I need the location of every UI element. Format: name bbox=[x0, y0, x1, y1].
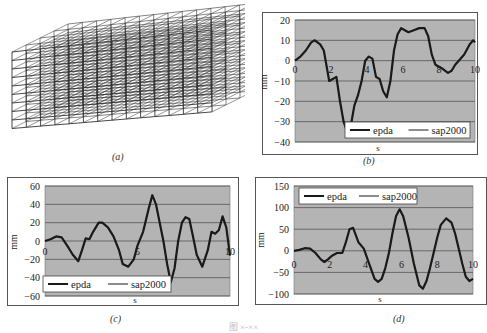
y-tick-label: 10 bbox=[280, 35, 290, 46]
y-tick-label: −40 bbox=[24, 272, 40, 283]
y-axis-label: mm bbox=[255, 232, 266, 248]
legend-label: epda bbox=[71, 279, 91, 290]
x-tick-label: 10 bbox=[470, 64, 480, 75]
y-tick-label: −100 bbox=[268, 289, 289, 300]
panel-c: 6040200−20−40−600510epdasap2000mms (c) bbox=[0, 170, 245, 333]
x-tick-label: 2 bbox=[329, 64, 334, 75]
y-tick-label: −20 bbox=[274, 96, 290, 107]
x-axis-label: s bbox=[376, 143, 380, 153]
wireframe-building-model bbox=[0, 0, 245, 160]
y-tick-label: 0 bbox=[35, 236, 40, 247]
y-tick-label: −30 bbox=[274, 116, 290, 127]
x-tick-label: 0 bbox=[293, 64, 298, 75]
y-tick-label: 60 bbox=[30, 181, 40, 192]
panel-a: (a) bbox=[0, 0, 245, 170]
legend-label: sap2000 bbox=[432, 125, 467, 136]
y-axis-label: mm bbox=[8, 234, 19, 250]
y-tick-label: −40 bbox=[274, 137, 290, 148]
legend-label: epda bbox=[327, 191, 347, 202]
chart-b: 20100−10−20−30−400246810epdasap2000mms bbox=[245, 0, 487, 170]
y-tick-label: 20 bbox=[280, 15, 290, 26]
x-tick-label: 0 bbox=[43, 246, 48, 257]
y-tick-label: 0 bbox=[285, 55, 290, 66]
figure-caption: 图 ×-×× bbox=[0, 320, 487, 333]
y-tick-label: −10 bbox=[274, 76, 290, 87]
y-tick-label: −50 bbox=[273, 267, 289, 278]
x-tick-label: 8 bbox=[435, 259, 440, 270]
y-tick-label: 100 bbox=[274, 202, 289, 213]
x-tick-label: 10 bbox=[468, 259, 478, 270]
x-axis-label: s bbox=[378, 294, 382, 304]
x-axis-label: s bbox=[133, 295, 137, 305]
chart-d: 150100500−50−1000246810epdasap2000mms bbox=[245, 170, 487, 333]
x-tick-label: 6 bbox=[401, 64, 406, 75]
x-tick-label: 0 bbox=[292, 259, 297, 270]
legend-label: sap2000 bbox=[382, 191, 417, 202]
legend-label: sap2000 bbox=[131, 279, 166, 290]
y-tick-label: 0 bbox=[284, 245, 289, 256]
caption-b: (b) bbox=[363, 155, 375, 166]
panel-d: 150100500−50−1000246810epdasap2000mms (d… bbox=[245, 170, 487, 333]
y-tick-label: −20 bbox=[24, 254, 40, 265]
caption-a: (a) bbox=[112, 151, 124, 162]
chart-c: 6040200−20−40−600510epdasap2000mms bbox=[0, 170, 245, 333]
y-tick-label: 20 bbox=[30, 217, 40, 228]
panel-b: 20100−10−20−30−400246810epdasap2000mms (… bbox=[245, 0, 487, 170]
y-tick-label: 50 bbox=[279, 224, 289, 235]
y-tick-label: 150 bbox=[274, 181, 289, 192]
legend-label: epda bbox=[373, 125, 393, 136]
y-tick-label: −60 bbox=[24, 291, 40, 302]
x-tick-label: 6 bbox=[399, 259, 404, 270]
y-tick-label: 40 bbox=[30, 199, 40, 210]
y-axis-label: mm bbox=[258, 74, 269, 90]
